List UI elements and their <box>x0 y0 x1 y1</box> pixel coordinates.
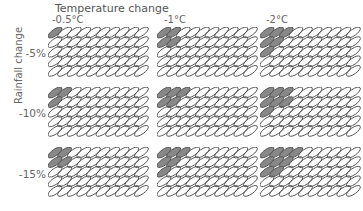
column-label-0: -0.5°C <box>52 14 84 25</box>
ellipse-grid-2-1 <box>157 147 261 201</box>
ellipse-grid-1-2 <box>260 87 363 141</box>
ellipse-grid-1-0 <box>48 87 152 141</box>
row-label-1: -10% <box>12 107 46 119</box>
column-label-1: -1°C <box>164 14 186 25</box>
ellipse-grid-2-2 <box>260 147 363 201</box>
column-label-2: -2°C <box>266 14 288 25</box>
ellipse-grid-2-0 <box>48 147 152 201</box>
ellipse-grid-0-2 <box>260 27 363 81</box>
y-axis-label: Rainfall change <box>13 26 24 106</box>
row-label-0: -5% <box>12 47 46 59</box>
ellipse-grid-0-0 <box>48 27 152 81</box>
row-label-2: -15% <box>12 168 46 180</box>
ellipse-grid-0-1 <box>157 27 261 81</box>
ellipse-grid-1-1 <box>157 87 261 141</box>
